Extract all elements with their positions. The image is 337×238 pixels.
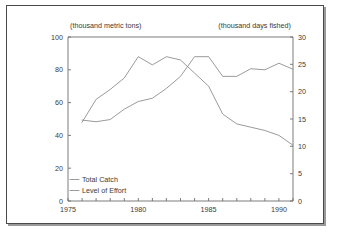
x-tick-label: 1975 bbox=[60, 205, 76, 214]
chart-legend: Total Catch Level of Effort bbox=[70, 175, 126, 195]
line-chart: (thousand metric tons) (thousand days fi… bbox=[0, 0, 337, 238]
series-line-level-of-effort bbox=[82, 57, 293, 122]
x-tick-label: 1980 bbox=[130, 205, 146, 214]
right-tick-label: 5 bbox=[298, 169, 302, 178]
legend-label-total-catch: Total Catch bbox=[82, 175, 118, 184]
right-axis-unit-label: (thousand days fished) bbox=[218, 21, 291, 30]
chart-figure: (thousand metric tons) (thousand days fi… bbox=[0, 0, 337, 238]
left-tick-label: 20 bbox=[55, 164, 63, 173]
right-axis-ticks: 30 25 20 15 10 5 0 bbox=[290, 33, 306, 206]
left-tick-label: 80 bbox=[55, 65, 63, 74]
left-axis-unit-label: (thousand metric tons) bbox=[70, 21, 142, 30]
left-tick-label: 100 bbox=[51, 33, 63, 42]
right-tick-label: 25 bbox=[298, 60, 306, 69]
right-tick-label: 30 bbox=[298, 33, 306, 42]
right-tick-label: 15 bbox=[298, 115, 306, 124]
right-tick-label: 10 bbox=[298, 142, 306, 151]
left-tick-label: 40 bbox=[55, 131, 63, 140]
left-tick-label: 60 bbox=[55, 98, 63, 107]
right-tick-label: 0 bbox=[298, 197, 302, 206]
x-tick-label: 1985 bbox=[201, 205, 217, 214]
x-axis-labels: 1975 1980 1985 1990 bbox=[60, 205, 287, 214]
legend-label-level-of-effort: Level of Effort bbox=[82, 186, 126, 195]
right-tick-label: 20 bbox=[298, 87, 306, 96]
x-tick-label: 1990 bbox=[271, 205, 287, 214]
